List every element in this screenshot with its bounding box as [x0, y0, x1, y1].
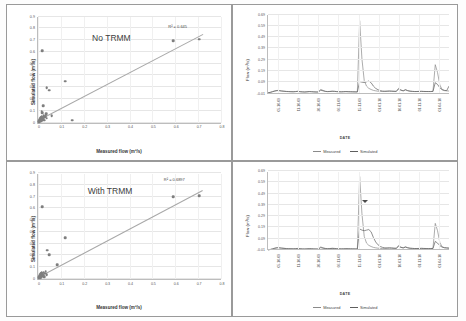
x-axis-tick: 0.4 — [128, 125, 133, 129]
x-axis-tick: 0.2 — [82, 125, 87, 129]
y-axis-tick: 0.69 — [258, 13, 265, 17]
timeseries-y-axis-label: Flow (m³/s) — [245, 215, 250, 237]
x-axis-tick: 0.1 — [59, 282, 64, 286]
legend-label: Measured — [323, 305, 340, 310]
scatter-title: With TRMM — [88, 186, 133, 196]
grid-line: 0.8 — [221, 174, 222, 280]
y-axis-tick: 0.39 — [258, 203, 265, 207]
x-axis-tick: 06-11-09 — [337, 98, 341, 111]
x-axis-tick: 01-11-10 — [418, 98, 422, 111]
grid-line: 01-01-10 — [379, 15, 380, 94]
scatter-point — [64, 80, 67, 83]
grid-line: 15-11-09 — [359, 15, 360, 94]
y-axis-tick: 0.1 — [30, 265, 35, 269]
y-axis-tick: 0.6 — [30, 50, 35, 54]
y-axis-tick: 0.19 — [258, 69, 265, 73]
scatter-point — [198, 38, 201, 41]
x-axis-tick: 11-10-09 — [297, 254, 301, 267]
y-axis-tick: 0.2 — [30, 253, 35, 257]
x-axis-tick: 0.7 — [197, 282, 202, 286]
x-axis-tick: 01-01-10 — [378, 98, 382, 112]
timeseries-x-axis-label: DATE — [233, 292, 457, 296]
y-axis-tick: 0.5 — [30, 218, 35, 222]
grid-line: 0 — [38, 17, 39, 123]
x-axis-line — [268, 249, 449, 250]
y-axis-tick: 0.4 — [30, 230, 35, 234]
y-axis-tick: 0.9 — [30, 15, 35, 19]
scatter-point — [45, 112, 48, 115]
grid-line: 0.7 — [198, 174, 199, 280]
grid-line: 20-10-09 — [318, 172, 319, 251]
scatter-point — [198, 195, 201, 198]
grid-line: 0.7 — [198, 17, 199, 123]
scatter-title: No TRMM — [92, 33, 131, 43]
scatter-point — [46, 249, 49, 252]
grid-line: 0.2 — [84, 174, 85, 280]
timeseries-y-axis-label: Flow (m³/s) — [245, 59, 250, 81]
panel-scatter-with-trmm: Simulated flow (m³/s) 00.10.20.30.40.50.… — [6, 161, 232, 318]
grid-line: 10-01-10 — [399, 15, 400, 94]
grid-line: 01-04-10 — [439, 15, 440, 94]
legend-line-icon — [313, 151, 321, 152]
panel-scatter-no-trmm: Simulated flow (m³/s) 00.10.20.30.40.50.… — [6, 4, 232, 161]
y-axis-tick: 0.8 — [30, 183, 35, 187]
x-axis-line — [268, 93, 449, 94]
scatter-point — [48, 89, 51, 92]
scatter-point — [172, 195, 175, 198]
x-axis-tick: 0.3 — [105, 125, 110, 129]
timeseries-plot-area: -0.010.090.190.290.390.490.590.6905-10-0… — [267, 15, 449, 94]
scatter-point — [64, 236, 67, 239]
y-axis-tick: 0.59 — [258, 24, 265, 28]
x-axis-tick: 20-10-09 — [317, 98, 321, 112]
x-axis-tick: 11-10-09 — [297, 98, 301, 111]
scatter-point — [41, 111, 44, 114]
scatter-x-axis-label: Measured flow (m³/s) — [7, 305, 231, 310]
panel-grid: Simulated flow (m³/s) 00.10.20.30.40.50.… — [6, 4, 458, 317]
x-axis-tick: 0.8 — [220, 125, 225, 129]
y-axis-tick: 0.9 — [30, 171, 35, 175]
y-axis-tick: 0.6 — [30, 206, 35, 210]
y-axis-tick: 0.29 — [258, 58, 265, 62]
scatter-point — [172, 39, 175, 42]
legend-line-icon — [350, 307, 358, 308]
grid-line: 05-10-09 — [278, 15, 279, 94]
legend-line-icon — [350, 151, 358, 152]
y-axis-tick: 0.09 — [258, 237, 265, 241]
x-axis-tick: 05-10-09 — [277, 254, 281, 268]
x-axis-tick: 0 — [38, 282, 40, 286]
grid-line: 0.6 — [175, 174, 176, 280]
x-axis-tick: 06-11-09 — [337, 254, 341, 267]
y-axis-tick: 0.3 — [30, 242, 35, 246]
panel-timeseries-no-trmm: Flow (m³/s) -0.010.090.190.290.390.490.5… — [232, 4, 458, 161]
legend-label: Simulated — [360, 305, 377, 310]
x-axis-tick: 0.3 — [105, 282, 110, 286]
x-axis-tick: 0.8 — [220, 282, 225, 286]
y-axis-tick: 0.19 — [258, 225, 265, 229]
y-axis-tick: 0.1 — [30, 109, 35, 113]
scatter-point — [71, 119, 74, 122]
x-axis-tick: 0.6 — [174, 282, 179, 286]
timeseries-legend: Measured Simulated — [233, 149, 457, 154]
y-axis-tick: 0.09 — [258, 80, 265, 84]
scatter-point — [50, 114, 53, 117]
x-axis-tick: 0.4 — [128, 282, 133, 286]
x-axis-tick: 01-01-10 — [378, 254, 382, 268]
timeseries-plot-area: -0.010.090.190.290.390.490.590.6905-10-0… — [267, 172, 449, 251]
y-axis-tick: 0.39 — [258, 46, 265, 50]
arrow-annotation-icon — [362, 200, 368, 203]
grid-line: 06-11-09 — [338, 172, 339, 251]
y-axis-tick: 0.3 — [30, 85, 35, 89]
legend-item-measured: Measured — [313, 305, 341, 310]
panel-timeseries-with-trmm: Flow (m³/s) -0.010.090.190.290.390.490.5… — [232, 161, 458, 318]
x-axis-tick: 0.5 — [151, 125, 156, 129]
scatter-r2-annotation: R² = 0.6897 — [164, 177, 185, 182]
grid-line: 10-01-10 — [399, 172, 400, 251]
grid-line: 11-10-09 — [298, 15, 299, 94]
grid-line: 01-04-10 — [439, 172, 440, 251]
legend-item-simulated: Simulated — [350, 149, 378, 154]
y-axis-tick: 0.5 — [30, 62, 35, 66]
legend-item-measured: Measured — [313, 149, 341, 154]
y-axis-tick: 0.49 — [258, 35, 265, 39]
grid-line: 0.5 — [152, 17, 153, 123]
x-axis-tick: 15-11-09 — [358, 254, 362, 267]
